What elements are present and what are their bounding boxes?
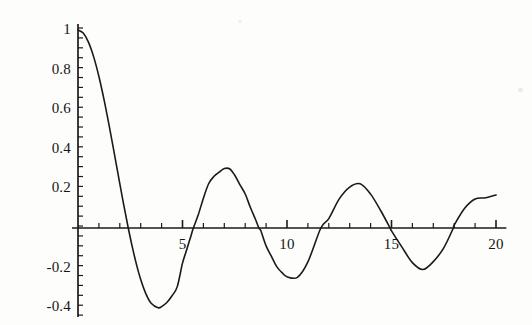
x-tick-label: 15 xyxy=(372,237,412,252)
y-tick-label: 0.6 xyxy=(52,101,71,116)
paper-speck xyxy=(518,88,523,92)
x-tick-label: 5 xyxy=(163,237,203,252)
y-tick-label: 0.2 xyxy=(52,180,71,195)
y-tick-label: -0.2 xyxy=(46,260,71,275)
y-tick-label: 0.4 xyxy=(52,141,71,156)
plot-canvas xyxy=(0,0,532,325)
curve-layer xyxy=(78,30,496,308)
plot-figure: 10.80.60.40.2-0.2-0.4 5101520 xyxy=(0,0,532,325)
y-tick-label: 0.8 xyxy=(52,62,71,77)
y-tick-label: -0.4 xyxy=(46,299,71,314)
axis-layer xyxy=(72,24,506,317)
data-series-curve xyxy=(78,30,496,308)
x-tick-label: 10 xyxy=(267,237,307,252)
tick-mark-layer xyxy=(78,28,496,315)
paper-speck xyxy=(238,20,242,23)
x-tick-label: 20 xyxy=(476,237,516,252)
y-tick-label: 1 xyxy=(63,22,71,37)
